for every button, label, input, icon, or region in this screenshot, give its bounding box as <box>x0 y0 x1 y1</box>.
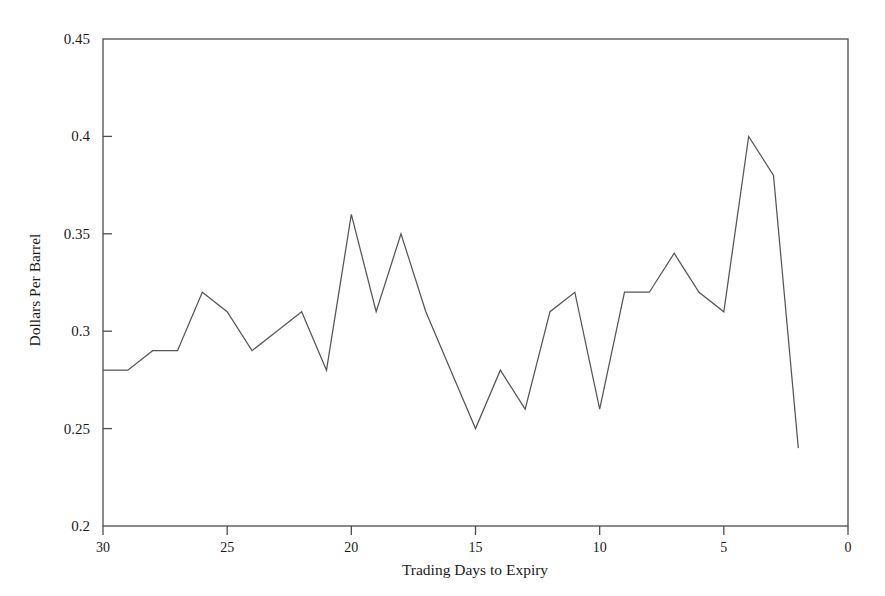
x-tick-label: 5 <box>720 540 727 555</box>
x-tick-label: 10 <box>593 540 607 555</box>
y-axis-title: Dollars Per Barrel <box>26 234 43 347</box>
y-tick-label: 0.35 <box>64 226 90 242</box>
y-tick-label: 0.3 <box>71 323 90 339</box>
x-tick-label: 20 <box>344 540 358 555</box>
y-tick-label: 0.2 <box>71 518 90 534</box>
x-axis-tick-labels: 302520151050 <box>96 540 852 555</box>
y-axis-tick-labels: 0.20.250.30.350.40.45 <box>64 31 91 534</box>
x-tick-label: 15 <box>469 540 483 555</box>
x-tick-label: 30 <box>96 540 110 555</box>
x-axis-ticks <box>103 526 848 535</box>
line-chart-canvas: 0.20.250.30.350.40.45 302520151050 Tradi… <box>0 0 885 596</box>
plot-frame <box>103 39 848 526</box>
y-tick-label: 0.25 <box>64 421 90 437</box>
x-tick-label: 0 <box>845 540 852 555</box>
data-series-line <box>103 136 798 448</box>
y-tick-label: 0.4 <box>71 128 90 144</box>
y-tick-label: 0.45 <box>64 31 90 47</box>
chart-figure: 0.20.250.30.350.40.45 302520151050 Tradi… <box>0 0 885 596</box>
y-axis-ticks <box>103 136 112 428</box>
x-axis-title: Trading Days to Expiry <box>402 561 548 578</box>
x-tick-label: 25 <box>220 540 234 555</box>
